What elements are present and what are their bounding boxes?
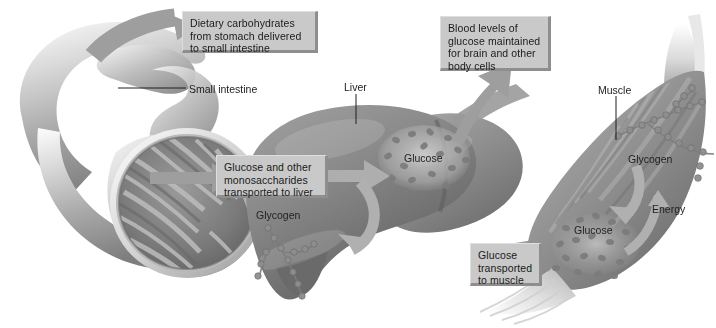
label-muscle-glucose: Glucose (574, 224, 613, 236)
callout-glucose-to-liver: Glucose and other monosaccharides transp… (216, 155, 328, 198)
small-intestine-organ (20, 22, 264, 284)
label-muscle: Muscle (598, 84, 631, 96)
label-small-intestine: Small intestine (189, 83, 257, 95)
label-liver-glucose: Glucose (404, 152, 443, 164)
illustration (0, 0, 716, 328)
label-liver: Liver (344, 81, 367, 93)
label-liver-glycogen: Glycogen (256, 209, 300, 221)
label-muscle-energy: Energy (652, 203, 685, 215)
callout-blood-glucose: Blood levels of glucose maintained for b… (440, 16, 551, 71)
callout-dietary-carbohydrates: Dietary carbohydrates from stomach deliv… (182, 11, 318, 53)
callout-glucose-to-muscle: Glucose transported to muscle (470, 243, 542, 286)
label-muscle-glycogen: Glycogen (628, 153, 672, 165)
diagram-canvas: Dietary carbohydrates from stomach deliv… (0, 0, 716, 328)
